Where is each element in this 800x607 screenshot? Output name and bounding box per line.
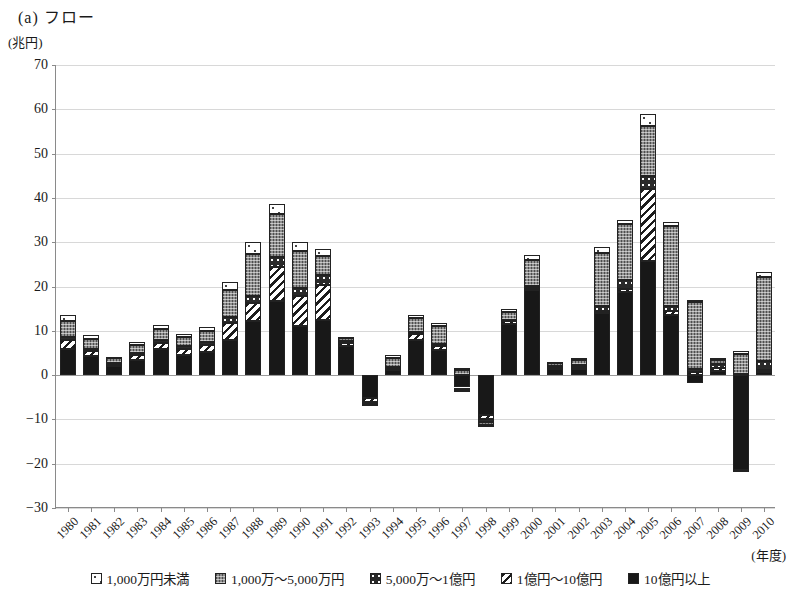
bar-group[interactable]: [292, 65, 308, 507]
bar-segment: [176, 346, 192, 348]
legend-item[interactable]: 1,000万～5,000万円: [215, 568, 344, 588]
bar-segment: [663, 226, 679, 306]
x-tick-mark: [416, 508, 417, 512]
bar-group[interactable]: [594, 65, 610, 507]
bar-group[interactable]: [431, 65, 447, 507]
bar-segment: [176, 349, 192, 355]
legend: 1,000万円未満1,000万～5,000万円5,000万～1億円1億円～10億…: [0, 568, 800, 588]
bar-segment: [269, 204, 285, 214]
bar-segment: [640, 126, 656, 176]
y-tick-mark: [52, 508, 56, 509]
bar-segment: [687, 372, 703, 376]
bar-segment: [60, 349, 76, 376]
bar-segment: [245, 296, 261, 303]
y-tick-mark: [52, 154, 56, 155]
bar-segment: [478, 425, 494, 427]
bar-segment: [594, 313, 610, 375]
bar-group[interactable]: [617, 65, 633, 507]
bar-segment: [222, 340, 238, 375]
x-tick-mark: [277, 508, 278, 512]
bar-group[interactable]: [60, 65, 76, 507]
bar-segment: [617, 280, 633, 289]
legend-item[interactable]: 1,000万円未満: [91, 568, 189, 588]
bar-group[interactable]: [408, 65, 424, 507]
bar-segment: [524, 290, 540, 375]
y-tick-label: 0: [2, 368, 48, 382]
x-tick-mark: [300, 508, 301, 512]
bar-segment: [199, 342, 215, 345]
x-tick-mark: [207, 508, 208, 512]
bar-group[interactable]: [153, 65, 169, 507]
bar-segment: [83, 349, 99, 351]
bar-segment: [176, 355, 192, 375]
x-tick-mark: [741, 508, 742, 512]
bar-segment: [594, 311, 610, 313]
bar-group[interactable]: [83, 65, 99, 507]
bar-segment: [269, 301, 285, 375]
bar-segment: [501, 320, 517, 322]
y-tick-label: 10: [2, 324, 48, 338]
bar-group[interactable]: [547, 65, 563, 507]
bar-group[interactable]: [501, 65, 517, 507]
bar-segment: [640, 176, 656, 189]
bar-segment: [478, 375, 494, 415]
bar-group[interactable]: [315, 65, 331, 507]
legend-item[interactable]: 1億円～10億円: [501, 568, 602, 588]
bar-group[interactable]: [129, 65, 145, 507]
bar-segment: [617, 292, 633, 375]
bar-segment: [60, 340, 76, 349]
page-title: (a) フロー: [18, 4, 95, 28]
bar-group[interactable]: [687, 65, 703, 507]
bar-segment: [199, 331, 215, 342]
bar-group[interactable]: [269, 65, 285, 507]
legend-swatch-icon: [215, 573, 226, 584]
bar-group[interactable]: [663, 65, 679, 507]
legend-item[interactable]: 10億円以上: [628, 568, 710, 588]
bar-segment: [362, 375, 378, 398]
bar-segment: [153, 325, 169, 329]
bar-segment: [176, 337, 192, 347]
bar-segment: [663, 315, 679, 375]
bar-segment: [269, 267, 285, 301]
bar-segment: [292, 242, 308, 251]
bar-group[interactable]: [640, 65, 656, 507]
bar-segment: [315, 275, 331, 285]
bar-group[interactable]: [338, 65, 354, 507]
y-tick-mark: [52, 331, 56, 332]
bar-group[interactable]: [733, 65, 749, 507]
bar-segment: [454, 370, 470, 375]
bar-segment: [222, 282, 238, 290]
bar-segment: [408, 334, 424, 339]
bar-group[interactable]: [710, 65, 726, 507]
bar-segment: [385, 370, 401, 375]
bar-segment: [710, 368, 726, 371]
bar-group[interactable]: [756, 65, 772, 507]
bar-group[interactable]: [454, 65, 470, 507]
y-tick-label: 30: [2, 235, 48, 249]
bar-segment: [129, 353, 145, 355]
bar-group[interactable]: [385, 65, 401, 507]
bar-group[interactable]: [245, 65, 261, 507]
bar-segment: [431, 323, 447, 326]
bar-segment: [245, 321, 261, 375]
bar-group[interactable]: [199, 65, 215, 507]
legend-item[interactable]: 5,000万～1億円: [370, 568, 475, 588]
bar-segment: [663, 311, 679, 315]
y-tick-mark: [52, 375, 56, 376]
y-axis-unit-label: (兆円): [8, 32, 43, 51]
bar-group[interactable]: [524, 65, 540, 507]
bar-segment: [547, 362, 563, 364]
bar-group[interactable]: [222, 65, 238, 507]
legend-swatch-icon: [628, 573, 639, 584]
bar-group[interactable]: [571, 65, 587, 507]
x-tick-mark: [579, 508, 580, 512]
bar-segment: [617, 289, 633, 292]
bar-group[interactable]: [478, 65, 494, 507]
bar-group[interactable]: [362, 65, 378, 507]
bar-group[interactable]: [176, 65, 192, 507]
bar-segment: [454, 368, 470, 370]
bar-group[interactable]: [106, 65, 122, 507]
legend-label: 1億円～10億円: [517, 568, 602, 588]
bar-segment: [733, 374, 749, 376]
bar-segment: [129, 345, 145, 354]
